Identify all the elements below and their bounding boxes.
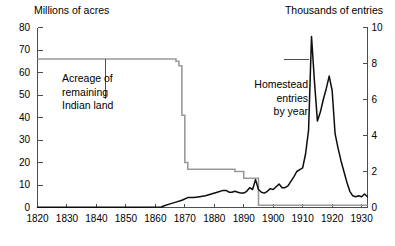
right-tick-label-4: 4 — [372, 131, 395, 141]
homestead-annotation: Homestead entries by year — [229, 78, 308, 119]
chart-canvas — [0, 0, 395, 246]
left-tick-label-80: 80 — [4, 23, 30, 33]
right-tick-label-2: 2 — [372, 167, 395, 177]
left-tick-label-70: 70 — [4, 45, 30, 55]
series-line-homestead — [38, 37, 368, 208]
left-axis-ticks — [38, 28, 43, 208]
left-tick-label-50: 50 — [4, 90, 30, 100]
left-tick-label-20: 20 — [4, 158, 30, 168]
right-tick-label-10: 10 — [372, 23, 395, 33]
acreage-annotation-line1: Acreage of — [62, 72, 113, 86]
homestead-annotation-line1: Homestead — [229, 78, 308, 92]
right-axis-ticks — [363, 28, 368, 208]
right-tick-label-0: 0 — [372, 203, 395, 213]
acreage-annotation: Acreage of remaining Indian land — [62, 72, 113, 113]
chart-container: Millions of acres Thousands of entries 0… — [0, 0, 395, 246]
left-tick-label-10: 10 — [4, 180, 30, 190]
homestead-annotation-line2: entries — [229, 92, 308, 106]
right-tick-label-6: 6 — [372, 95, 395, 105]
acreage-annotation-line2: remaining — [62, 86, 113, 100]
left-tick-label-30: 30 — [4, 135, 30, 145]
left-tick-label-60: 60 — [4, 68, 30, 78]
right-tick-label-8: 8 — [372, 59, 395, 69]
homestead-annotation-line3: by year — [229, 105, 308, 119]
left-tick-label-0: 0 — [4, 203, 30, 213]
x-tick-label-1930: 1930 — [345, 214, 379, 224]
left-tick-label-40: 40 — [4, 113, 30, 123]
acreage-annotation-line3: Indian land — [62, 99, 113, 113]
